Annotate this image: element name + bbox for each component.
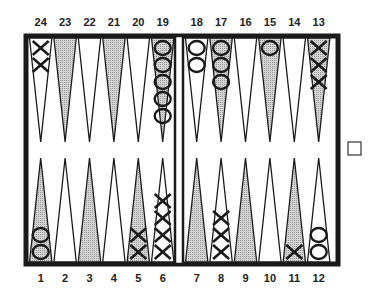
point-label-3: 3 — [86, 272, 92, 284]
point-label-18: 18 — [191, 16, 203, 28]
point-label-20: 20 — [132, 16, 144, 28]
point-label-6: 6 — [160, 272, 166, 284]
point-label-2: 2 — [62, 272, 68, 284]
doubling-cube[interactable] — [348, 142, 361, 155]
point-label-16: 16 — [239, 16, 251, 28]
point-label-11: 11 — [288, 272, 300, 284]
point-label-5: 5 — [135, 272, 141, 284]
point-label-19: 19 — [157, 16, 169, 28]
bottom-point-labels: 123456789101112 — [38, 272, 325, 284]
top-point-labels: 242322212019181716151413 — [35, 16, 325, 28]
point-label-21: 21 — [108, 16, 120, 28]
point-label-10: 10 — [264, 272, 276, 284]
bar[interactable] — [175, 36, 183, 264]
point-label-15: 15 — [264, 16, 276, 28]
point-label-4: 4 — [111, 272, 118, 284]
point-label-17: 17 — [215, 16, 227, 28]
point-label-24: 24 — [35, 16, 48, 28]
point-label-23: 23 — [59, 16, 71, 28]
point-label-8: 8 — [218, 272, 224, 284]
point-label-9: 9 — [242, 272, 248, 284]
point-label-22: 22 — [83, 16, 95, 28]
point-label-14: 14 — [288, 16, 301, 28]
point-label-1: 1 — [38, 272, 44, 284]
backgammon-board: 242322212019181716151413 123456789101112 — [0, 0, 373, 295]
point-label-12: 12 — [313, 272, 325, 284]
point-label-13: 13 — [313, 16, 325, 28]
point-label-7: 7 — [194, 272, 200, 284]
